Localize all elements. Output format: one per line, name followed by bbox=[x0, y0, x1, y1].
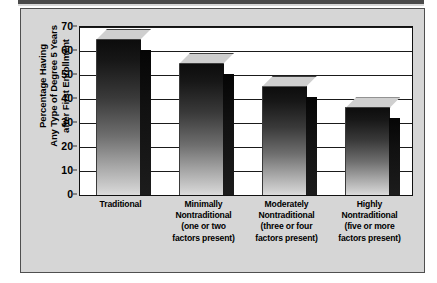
bar-side-face bbox=[223, 74, 234, 195]
y-tick-label: 10 bbox=[61, 164, 73, 176]
y-tick-mark bbox=[73, 74, 77, 75]
x-axis-label-line: factors present) bbox=[162, 233, 245, 244]
bar-side-face bbox=[389, 118, 400, 195]
y-tick-label: 30 bbox=[61, 116, 73, 128]
x-axis-labels: TraditionalMinimallyNontraditional(one o… bbox=[79, 199, 413, 261]
x-axis-label-line: Nontraditional bbox=[245, 210, 328, 221]
y-tick-label: 70 bbox=[61, 20, 73, 32]
x-axis-label-line: Moderately bbox=[245, 199, 328, 210]
x-axis-label-line: Nontraditional bbox=[162, 210, 245, 221]
x-axis-label-line: Traditional bbox=[79, 199, 162, 210]
x-axis-label-line: factors present) bbox=[245, 233, 328, 244]
x-axis-label-line: Highly bbox=[328, 199, 411, 210]
x-axis-label-line: (one or two bbox=[162, 221, 245, 232]
x-axis-category-label: ModeratelyNontraditional(three or fourfa… bbox=[245, 199, 328, 244]
y-tick-label: 60 bbox=[61, 44, 73, 56]
y-tick-mark bbox=[73, 170, 77, 171]
y-tick-mark bbox=[73, 146, 77, 147]
gridline bbox=[80, 27, 412, 28]
x-axis-category-label: HighlyNontraditional(five or morefactors… bbox=[328, 199, 411, 244]
x-axis-label-line: (three or four bbox=[245, 221, 328, 232]
x-axis-category-label: MinimallyNontraditional(one or twofactor… bbox=[162, 199, 245, 244]
plot-area bbox=[79, 26, 413, 196]
bar bbox=[345, 107, 389, 195]
y-axis-ticks: 706050403020100 bbox=[39, 26, 77, 196]
chart-panel: Percentage Having Any Type of Degree 5 Y… bbox=[20, 8, 425, 273]
x-axis-label-line: Minimally bbox=[162, 199, 245, 210]
y-tick-mark bbox=[73, 26, 77, 27]
scan-artifact-band bbox=[18, 0, 424, 4]
bar-front-face bbox=[179, 63, 224, 195]
bar-top-face bbox=[262, 76, 317, 87]
y-tick-mark bbox=[73, 194, 77, 195]
x-axis-category-label: Traditional bbox=[79, 199, 162, 210]
x-axis-label-line: factors present) bbox=[328, 233, 411, 244]
bar-front-face bbox=[96, 39, 141, 195]
bar-side-face bbox=[306, 97, 317, 195]
bar bbox=[96, 39, 140, 195]
bar-top-face bbox=[179, 53, 234, 64]
y-tick-label: 20 bbox=[61, 140, 73, 152]
bar-front-face bbox=[345, 107, 390, 195]
bar-top-face bbox=[96, 29, 151, 40]
bar bbox=[179, 63, 223, 195]
bar-side-face bbox=[140, 50, 151, 195]
y-tick-mark bbox=[73, 50, 77, 51]
x-axis-label-line: Nontraditional bbox=[328, 210, 411, 221]
y-tick-mark bbox=[73, 98, 77, 99]
bar bbox=[262, 86, 306, 195]
y-tick-mark bbox=[73, 122, 77, 123]
y-tick-label: 40 bbox=[61, 92, 73, 104]
x-axis-label-line: (five or more bbox=[328, 221, 411, 232]
y-tick-label: 50 bbox=[61, 68, 73, 80]
bar-front-face bbox=[262, 86, 307, 195]
